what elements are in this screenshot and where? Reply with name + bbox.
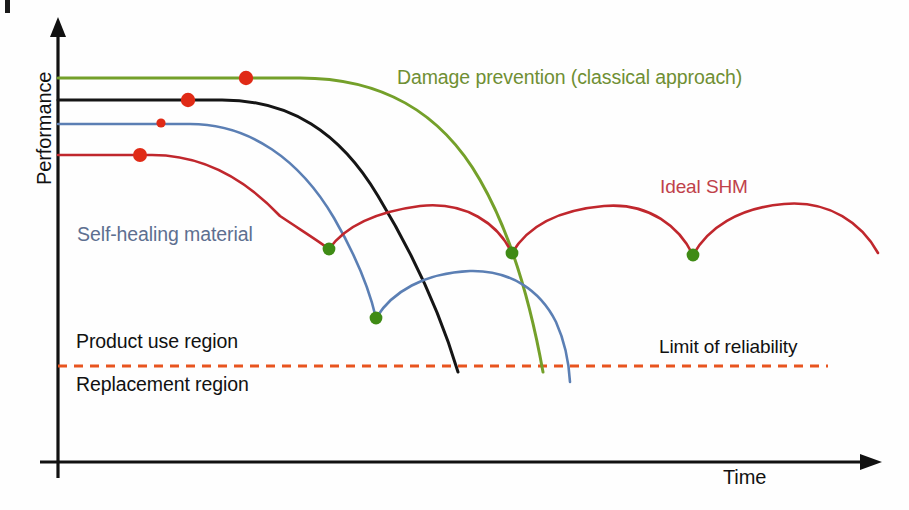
label-ideal-shm: Ideal SHM <box>660 176 748 198</box>
label-self-healing-material: Self-healing material <box>77 223 253 246</box>
x-axis-label: Time <box>723 466 766 489</box>
damage-event-markers <box>133 71 253 162</box>
damage-event-dot-blue-curve <box>156 118 165 127</box>
x-axis-arrowhead <box>860 454 882 470</box>
damage-event-dot-red-curve <box>133 148 147 162</box>
repair-dot-shm-2 <box>506 247 519 260</box>
figure-canvas: Performance Time Damage prevention (clas… <box>0 0 909 510</box>
damage-event-dot-green-curve <box>239 71 253 85</box>
label-damage-prevention: Damage prevention (classical approach) <box>397 66 742 89</box>
repair-dot-shm-3 <box>687 249 700 262</box>
y-axis-label: Performance <box>33 0 56 185</box>
label-limit-of-reliability: Limit of reliability <box>659 336 797 358</box>
label-replacement-region: Replacement region <box>76 373 249 396</box>
damage-event-dot-black-curve <box>181 93 195 107</box>
repair-dot-shm-1 <box>323 243 336 256</box>
label-product-use-region: Product use region <box>76 330 238 353</box>
healing-dot-self-healing <box>370 312 383 325</box>
